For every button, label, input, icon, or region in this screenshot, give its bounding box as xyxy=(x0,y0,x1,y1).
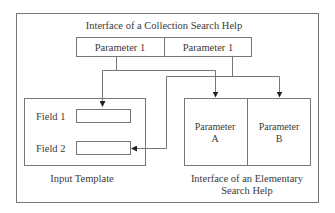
parameter-b-label: Parameter xyxy=(259,121,300,132)
collection-interface-title: Interface of a Collection Search Help xyxy=(86,20,243,31)
field-2-label: Field 2 xyxy=(36,143,65,154)
field-1-label: Field 1 xyxy=(36,111,65,122)
parameter-a-letter: A xyxy=(211,133,219,144)
elementary-caption-line2: Search Help xyxy=(221,185,273,196)
field-2-input[interactable] xyxy=(77,142,131,155)
collection-search-help-diagram: Interface of a Collection Search Help Pa… xyxy=(0,0,335,213)
elementary-caption-line1: Interface of an Elementary xyxy=(191,173,304,184)
input-template-caption: Input Template xyxy=(50,173,114,184)
collection-parameter-1: Parameter 1 xyxy=(95,42,145,53)
field-1-input[interactable] xyxy=(77,110,131,123)
collection-parameter-2: Parameter 1 xyxy=(183,42,233,53)
collection-parameter-bar: Parameter 1 Parameter 1 xyxy=(77,38,252,57)
input-template: Field 1 Field 2 xyxy=(25,99,146,166)
parameter-a-label: Parameter xyxy=(195,121,236,132)
elementary-interface: Parameter A Parameter B xyxy=(185,99,311,166)
parameter-b-letter: B xyxy=(276,133,283,144)
